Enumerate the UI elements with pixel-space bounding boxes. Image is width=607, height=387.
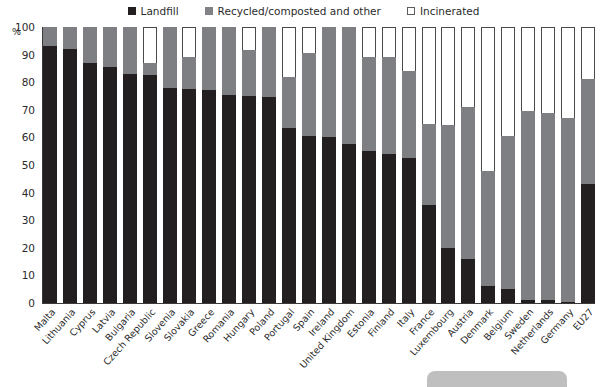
- bar-segment-incinerated: [362, 27, 376, 57]
- bar-stack: [561, 27, 575, 303]
- chart-legend: Landfill Recycled/composted and other In…: [0, 6, 607, 17]
- bar-segment-recycled: [422, 124, 436, 205]
- bar-column: [302, 27, 316, 303]
- legend-item-recycled: Recycled/composted and other: [205, 6, 381, 17]
- bar-stack: [262, 27, 276, 303]
- bar-segment-recycled: [123, 27, 137, 74]
- bar-stack: [481, 27, 495, 303]
- bar-segment-landfill: [561, 302, 575, 303]
- bar-segment-landfill: [322, 137, 336, 303]
- bar-segment-landfill: [242, 96, 256, 303]
- y-axis-tick-label: 0: [28, 298, 35, 309]
- bar-column: [342, 27, 356, 303]
- bar-stack: [521, 27, 535, 303]
- bar-segment-recycled: [581, 79, 595, 184]
- bar-segment-incinerated: [581, 27, 595, 79]
- bar-segment-landfill: [481, 286, 495, 303]
- y-axis-tick-label: 100: [15, 22, 35, 33]
- bar-segment-landfill: [461, 259, 475, 303]
- filled-grey-square-icon: [205, 7, 213, 15]
- legend-label-recycled: Recycled/composted and other: [218, 6, 381, 17]
- bar-column: [541, 27, 555, 303]
- bar-stack: [282, 27, 296, 303]
- bar-stack: [182, 27, 196, 303]
- bar-stack: [541, 27, 555, 303]
- bar-stack: [501, 27, 515, 303]
- bar-segment-landfill: [302, 136, 316, 303]
- x-axis-label-slot: Finland: [382, 305, 396, 381]
- bar-column: [83, 27, 97, 303]
- bar-column: [581, 27, 595, 303]
- bar-segment-landfill: [123, 74, 137, 303]
- x-axis-label-slot: Poland: [262, 305, 276, 381]
- bar-segment-landfill: [342, 144, 356, 303]
- bar-segment-landfill: [163, 88, 177, 303]
- bar-column: [441, 27, 455, 303]
- bar-segment-incinerated: [242, 27, 256, 50]
- bar-column: [103, 27, 117, 303]
- x-axis-line: [42, 303, 595, 304]
- bar-segment-incinerated: [461, 27, 475, 107]
- bar-column: [282, 27, 296, 303]
- bar-segment-recycled: [282, 77, 296, 128]
- x-axis-label-slot: Hungary: [242, 305, 256, 381]
- bar-column: [222, 27, 236, 303]
- bar-segment-landfill: [43, 46, 57, 303]
- y-axis-tick-label: 60: [22, 132, 35, 143]
- bar-segment-recycled: [362, 57, 376, 151]
- y-axis-tick-label: 70: [22, 105, 35, 116]
- bar-column: [422, 27, 436, 303]
- y-axis: 0102030405060708090100: [0, 27, 40, 304]
- bar-segment-landfill: [262, 97, 276, 303]
- x-axis-label-slot: Slovakia: [182, 305, 196, 381]
- bar-segment-recycled: [242, 50, 256, 96]
- bar-column: [501, 27, 515, 303]
- bar-segment-recycled: [103, 27, 117, 67]
- legend-label-landfill: Landfill: [141, 6, 179, 17]
- bar-segment-recycled: [43, 27, 57, 46]
- bar-column: [461, 27, 475, 303]
- outlined-white-square-icon: [407, 7, 415, 15]
- bar-segment-landfill: [83, 63, 97, 303]
- bar-segment-recycled: [481, 171, 495, 287]
- bar-column: [202, 27, 216, 303]
- bar-segment-recycled: [461, 107, 475, 259]
- bar-series-container: [43, 27, 595, 303]
- bar-column: [402, 27, 416, 303]
- bar-segment-landfill: [402, 158, 416, 303]
- bar-segment-recycled: [202, 27, 216, 90]
- x-axis-label-slot: Portugal: [282, 305, 296, 381]
- bar-segment-landfill: [222, 95, 236, 303]
- bar-column: [242, 27, 256, 303]
- bar-column: [123, 27, 137, 303]
- bar-stack: [143, 27, 157, 303]
- x-axis-label-slot: Denmark: [481, 305, 495, 381]
- bar-stack: [402, 27, 416, 303]
- bar-stack: [322, 27, 336, 303]
- bar-stack: [103, 27, 117, 303]
- decorative-bottom-pill: [427, 371, 567, 387]
- bar-column: [382, 27, 396, 303]
- bar-segment-recycled: [541, 113, 555, 301]
- bar-stack: [43, 27, 57, 303]
- bar-segment-incinerated: [521, 27, 535, 111]
- bar-column: [163, 27, 177, 303]
- bar-segment-incinerated: [561, 27, 575, 118]
- bar-segment-landfill: [202, 90, 216, 303]
- bar-column: [63, 27, 77, 303]
- bar-stack: [83, 27, 97, 303]
- legend-item-incinerated: Incinerated: [407, 6, 480, 17]
- bar-segment-incinerated: [302, 27, 316, 53]
- bar-segment-landfill: [103, 67, 117, 303]
- bar-segment-incinerated: [143, 27, 157, 63]
- y-axis-tick-label: 80: [22, 77, 35, 88]
- x-axis-labels: MaltaLithuaniaCyprusLatviaBulgariaCzech …: [43, 305, 595, 381]
- bar-segment-incinerated: [441, 27, 455, 125]
- bar-segment-recycled: [222, 27, 236, 95]
- bar-segment-recycled: [342, 27, 356, 144]
- x-axis-label-slot: Cyprus: [83, 305, 97, 381]
- bar-column: [322, 27, 336, 303]
- bar-stack: [222, 27, 236, 303]
- bar-segment-landfill: [63, 49, 77, 303]
